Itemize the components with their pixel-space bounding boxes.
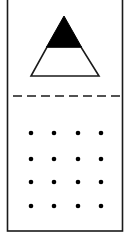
dot <box>76 131 81 136</box>
dot <box>29 180 34 185</box>
triangle-white-part <box>31 47 99 76</box>
dot <box>52 204 57 209</box>
dot <box>99 157 104 162</box>
dot <box>76 204 81 209</box>
dot-grid <box>29 131 104 209</box>
dot <box>29 131 34 136</box>
dot <box>76 180 81 185</box>
dot <box>52 131 57 136</box>
dot <box>29 157 34 162</box>
dot <box>76 157 81 162</box>
triangle-shape <box>31 16 99 76</box>
dot <box>52 157 57 162</box>
dot <box>99 180 104 185</box>
dot <box>52 180 57 185</box>
dot <box>29 204 34 209</box>
dot <box>99 204 104 209</box>
dot <box>99 131 104 136</box>
triangle-black-tip <box>47 16 82 47</box>
folded-paper-diagram <box>0 0 126 241</box>
